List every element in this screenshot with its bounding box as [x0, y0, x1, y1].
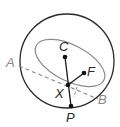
label-p: P — [66, 110, 75, 125]
label-f: F — [87, 64, 96, 79]
point-x — [66, 83, 71, 88]
point-p — [69, 104, 74, 109]
label-x: X — [54, 86, 65, 101]
label-b: B — [98, 92, 107, 107]
label-a: A — [5, 55, 15, 70]
point-f — [82, 71, 87, 76]
label-c: C — [59, 39, 69, 54]
plane-section-ellipse — [28, 30, 112, 97]
dashed-tick — [74, 87, 77, 97]
point-c — [63, 55, 68, 60]
geometry-diagram: C F X P A B — [0, 0, 120, 127]
segment-xf — [68, 73, 84, 85]
